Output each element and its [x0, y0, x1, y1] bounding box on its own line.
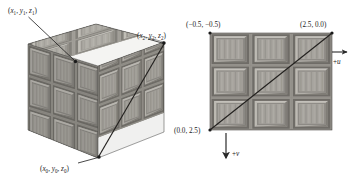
cube-vertex-v0-label: (x0, y0, z0): [40, 165, 69, 174]
cube-vertex-v0-dot: [97, 155, 100, 158]
v-axis: +v: [226, 133, 240, 158]
uv-square-diagram: (−0.5, −0.5) (2.5, 0.0) (0.0, 2.5) +u +v: [174, 21, 347, 158]
uv-corner-top-left-label: (−0.5, −0.5): [186, 21, 221, 29]
uv-corner-bottom-left-label: (0.0, 2.5): [174, 127, 201, 135]
figure-container: (x1, y1, z1) (x2, y2, z2) (x0, y0, z0) (…: [0, 0, 352, 181]
cube-leader-v0: [78, 157, 99, 163]
uv-corner-top-right-dot: [330, 31, 333, 34]
cube-vertex-v2-label: (x2, y2, z2): [137, 32, 166, 41]
uv-corner-bottom-left-dot: [208, 128, 211, 131]
cube-vertex-v1-label: (x1, y1, z1): [8, 7, 37, 16]
u-axis: +u: [332, 52, 347, 66]
uv-corner-top-right-label: (2.5, 0.0): [300, 21, 327, 29]
uv-corner-top-left-dot: [208, 31, 211, 34]
cube-diagram: (x1, y1, z1) (x2, y2, z2) (x0, y0, z0): [8, 0, 166, 174]
u-axis-label: +u: [333, 58, 341, 66]
figure-svg: (x1, y1, z1) (x2, y2, z2) (x0, y0, z0) (…: [0, 0, 352, 181]
v-axis-label: +v: [232, 150, 240, 158]
